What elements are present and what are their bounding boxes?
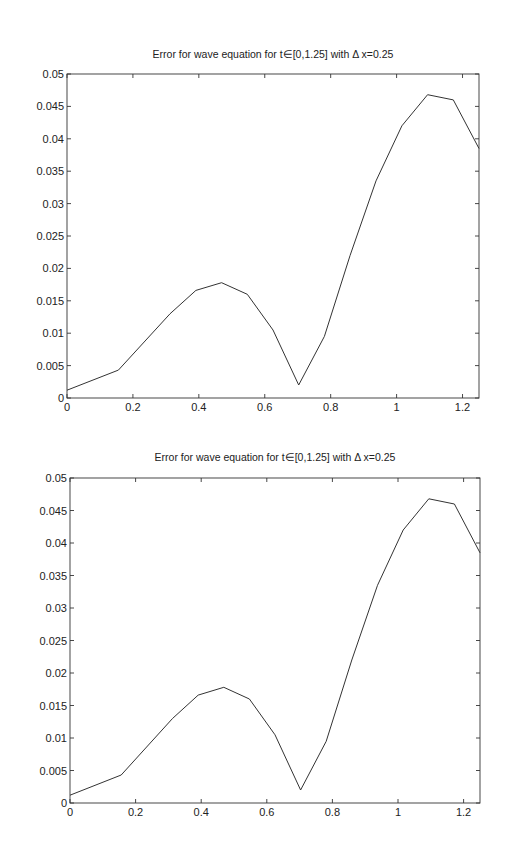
chart-title: Error for wave equation for t∈[0,1.25] w…: [155, 451, 396, 463]
y-tick-label: 0.01: [46, 732, 67, 744]
x-tick-label: 0: [67, 806, 73, 818]
plot-canvas: Error for wave equation for t∈[0,1.25] w…: [0, 0, 512, 857]
x-tick-label: 1.2: [456, 806, 471, 818]
y-tick-label: 0.005: [39, 765, 67, 777]
y-tick-label: 0.015: [39, 700, 67, 712]
y-tick-label: 0.035: [39, 570, 67, 582]
x-tick-label: 0.6: [259, 806, 274, 818]
x-tick-label: 0.2: [128, 806, 143, 818]
y-tick-label: 0.045: [39, 505, 67, 517]
y-tick-label: 0.02: [46, 667, 67, 679]
x-tick-label: 1: [395, 806, 401, 818]
y-tick-label: 0.05: [46, 472, 67, 484]
x-tick-label: 0.4: [194, 806, 209, 818]
y-tick-label: 0.04: [46, 537, 67, 549]
y-tick-label: 0.025: [39, 635, 67, 647]
axes-frame: [70, 478, 480, 803]
error-plot-bottom: Error for wave equation for t∈[0,1.25] w…: [0, 0, 512, 857]
y-tick-label: 0.03: [46, 602, 67, 614]
error-curve: [70, 499, 480, 795]
x-tick-label: 0.8: [325, 806, 340, 818]
